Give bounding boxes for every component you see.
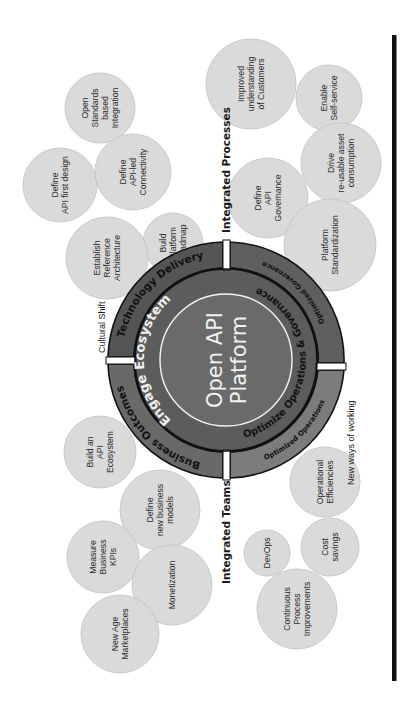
open-api-platform-diagram: OpenStandardsbasedIntegrationDefineAPI f… — [0, 0, 401, 703]
bubble: DefineAPI first design — [23, 148, 97, 222]
center-title-line2: Platform — [227, 316, 251, 405]
bubble: DefineAPI-ledConnectivity — [95, 134, 171, 210]
bubble: New AgeMarketplaces — [81, 595, 159, 673]
minor-label-new-ways-of-working: New ways of working — [346, 400, 356, 485]
bubble: Costsavings — [301, 518, 359, 576]
bubble: Build anAPIEcosystem — [64, 416, 136, 488]
bubble: ContinuousProcessImprovements — [257, 569, 337, 649]
section-label-integrated-teams: Integrated Teams — [220, 480, 232, 584]
bubble: EnableSelf-service — [296, 65, 362, 131]
bubble-label: Monetization — [167, 560, 177, 609]
center-title-line1: Open API — [203, 312, 227, 408]
bubble-label: DevOps — [262, 537, 272, 568]
platform-ring: Technology Delivery Optimized Governance… — [106, 240, 346, 480]
bubble: DevOps — [244, 530, 290, 576]
side-bar — [392, 35, 397, 681]
bubble-label: OperationalEfficiencies — [315, 460, 335, 505]
bubble: MeasureBusinessKPIs — [67, 521, 139, 593]
section-label-integrated-processes: Integrated Processes — [220, 107, 232, 233]
minor-label-cultural-shift: Cultural Shift — [97, 301, 107, 353]
bubble: OpenStandardsbasedIntegration — [65, 73, 135, 143]
bubble-label: EstablishReferenceArchitecture — [92, 235, 122, 281]
bubble: Drivere-usable assetconsumption — [301, 123, 381, 203]
